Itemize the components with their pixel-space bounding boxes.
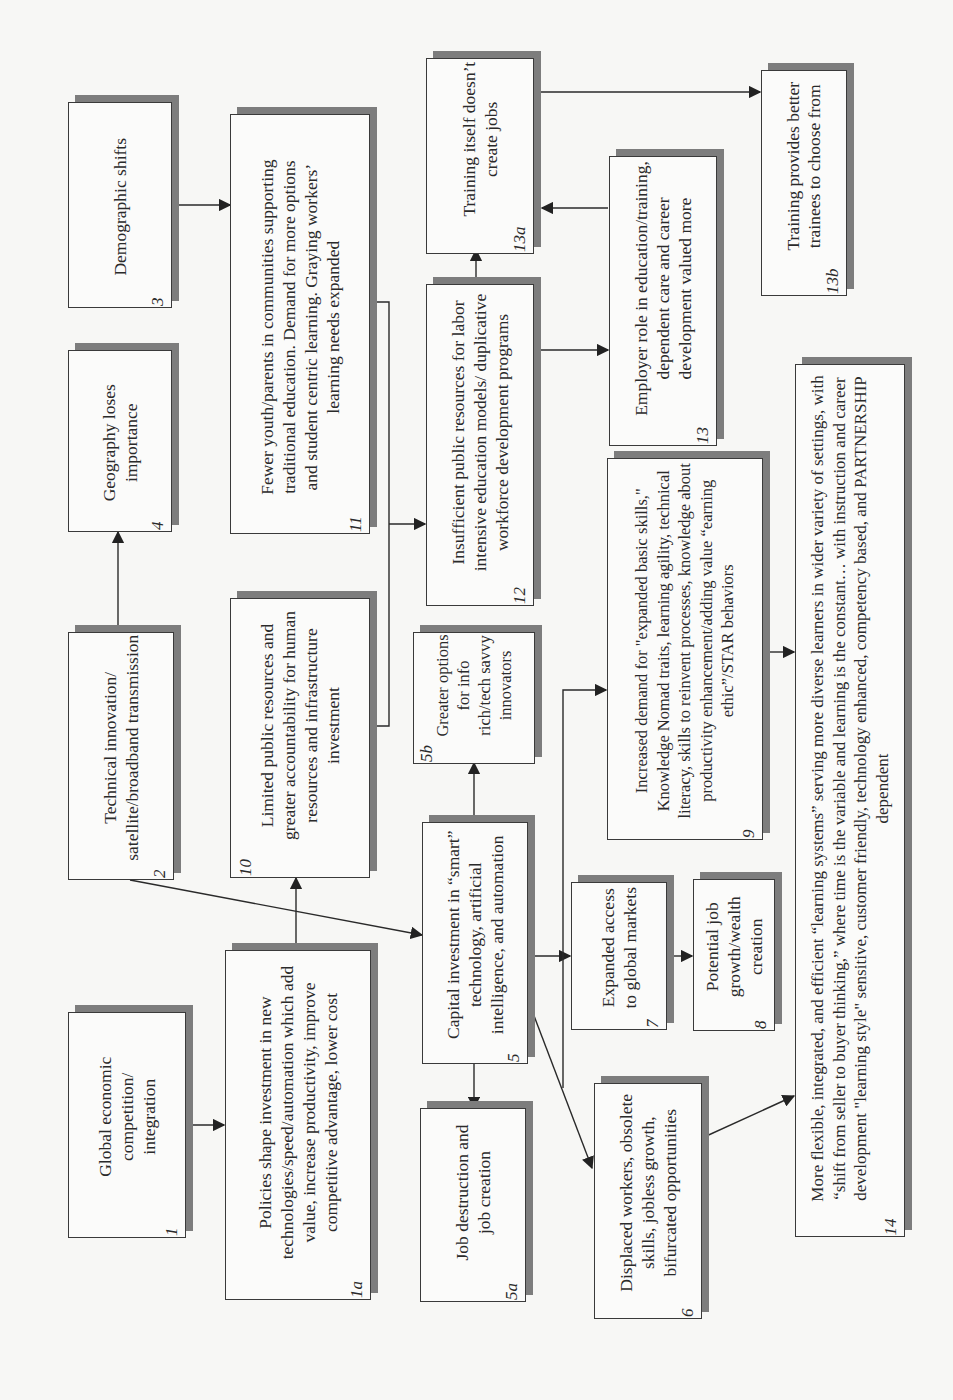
node-number: 9 [739, 830, 761, 839]
node-number: 14 [881, 1218, 903, 1235]
node-text: Limited public resources and greater acc… [256, 600, 344, 851]
node-7-global-markets: 7 Expanded access to global markets [571, 882, 667, 1030]
node-number: 6 [678, 1309, 700, 1318]
node-text: Insufficient public resources for labor … [447, 286, 513, 579]
node-number: 13b [823, 269, 845, 295]
node-number: 1a [347, 1281, 369, 1298]
node-6-displaced-workers: 6 Displaced workers, obsolete skills, jo… [594, 1083, 702, 1319]
node-8-job-growth: 8 Potential job growth/wealth creation [693, 879, 775, 1031]
node-9-increased-demand: 9 Increased demand for "expanded basic s… [607, 458, 763, 840]
node-10-limited-public-resources: 10 Limited public resources and greater … [230, 598, 370, 878]
node-number: 4 [148, 522, 170, 531]
node-number: 5 [504, 1054, 526, 1063]
node-number: 13 [693, 427, 715, 444]
node-text: Technical innovation/ satellite/broadban… [99, 634, 143, 862]
node-text: Expanded access to global markets [597, 884, 641, 1012]
node-text: More flexible, integrated, and efficient… [807, 366, 893, 1210]
node-text: Job destruction and job creation [451, 1110, 495, 1275]
node-number: 7 [643, 1020, 665, 1029]
node-text: Global economic competition/ integration [94, 1014, 160, 1220]
node-text: Greater options for info rich/tech savvy… [432, 634, 516, 737]
node-text: Increased demand for "expanded basic ski… [631, 460, 739, 822]
node-3-demographic-shifts: 3 Demographic shifts [68, 102, 172, 308]
node-1-global-competition: 1 Global economic competition/ integrati… [68, 1012, 186, 1238]
node-number: 1 [162, 1228, 184, 1237]
node-5b-greater-options: 5b Greater options for info rich/tech sa… [413, 632, 535, 764]
node-11-fewer-youth: 11 Fewer youth/parents in communities su… [230, 114, 370, 534]
node-13-employer-role: 13 Employer role in education/training, … [609, 156, 717, 446]
node-text: Potential job growth/wealth creation [701, 881, 767, 1013]
node-number: 10 [232, 859, 258, 876]
node-number: 2 [150, 870, 172, 879]
node-number: 12 [510, 587, 532, 604]
node-14-learning-systems: 14 More flexible, integrated, and effici… [795, 364, 905, 1237]
node-text: Demographic shifts [109, 104, 131, 290]
node-text: Fewer youth/parents in communities suppo… [256, 116, 344, 508]
node-number: 5a [502, 1283, 524, 1300]
node-2-technical-innovation: 2 Technical innovation/ satellite/broadb… [68, 632, 174, 880]
node-text: Capital investment in “smart” technology… [442, 824, 508, 1046]
node-text: Training provides better trainees to cho… [783, 72, 825, 261]
node-text: Policies shape investment in new technol… [254, 952, 342, 1273]
node-5-capital-investment: 5 Capital investment in “smart” technolo… [422, 822, 528, 1064]
node-number: 13a [510, 227, 532, 253]
node-text: Geography loses importance [98, 352, 142, 514]
node-13a-training-no-jobs: 13a Training itself doesn’t create jobs [426, 58, 534, 254]
node-5a-job-destruction: 5a Job destruction and job creation [420, 1108, 526, 1302]
node-number: 8 [751, 1021, 773, 1030]
node-text: Training itself doesn’t create jobs [458, 60, 502, 219]
node-1a-policies: 1a Policies shape investment in new tech… [225, 950, 371, 1300]
node-4-geography: 4 Geography loses importance [68, 350, 172, 532]
node-13b-better-trainees: 13b Training provides better trainees to… [761, 70, 847, 296]
node-number: 5b [415, 745, 439, 762]
node-12-insufficient-public-resources: 12 Insufficient public resources for lab… [426, 284, 534, 606]
node-number: 11 [346, 516, 368, 532]
node-text: Displaced workers, obsolete skills, jobl… [615, 1085, 681, 1301]
node-number: 3 [148, 298, 170, 307]
node-text: Employer role in education/training, dep… [630, 158, 696, 419]
